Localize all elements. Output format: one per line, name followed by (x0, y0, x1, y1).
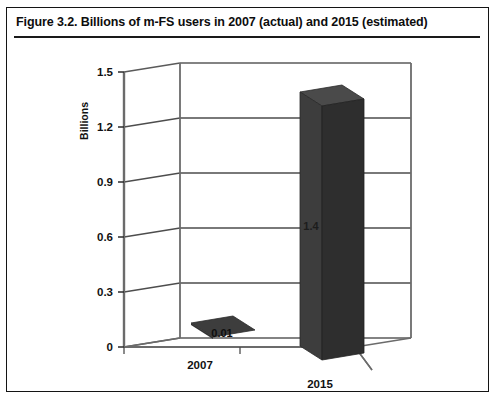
y-tick-label-0-9: 0.9 (97, 176, 113, 188)
y-axis-title-label: Billions (78, 102, 90, 140)
figure-title: Figure 3.2. Billions of m-FS users in 20… (16, 15, 466, 29)
chart-plot-area: 1.5 1.2 0.9 0.6 0.3 0 Billions 0.01 (0, 40, 497, 400)
y-tick-label-0-6: 0.6 (97, 231, 113, 243)
y-axis-title: Billions (78, 102, 90, 140)
x-axis-category-labels: 2007 2015 (187, 359, 333, 390)
bar-2015-side-face (322, 99, 364, 360)
column-chart-3d: 1.5 1.2 0.9 0.6 0.3 0 Billions 0.01 (0, 40, 497, 400)
bar-2015-value-label: 1.4 (303, 220, 319, 232)
title-separator-rule (14, 36, 480, 38)
chart-floor (124, 338, 411, 362)
chart-left-wall (124, 63, 180, 338)
bar-2007-value-label: 0.01 (211, 327, 232, 339)
y-axis-tick-labels: 1.5 1.2 0.9 0.6 0.3 0 (97, 66, 114, 353)
category-label-2007: 2007 (187, 359, 213, 371)
y-tick-label-0-3: 0.3 (97, 286, 113, 298)
chart-back-wall (180, 63, 411, 338)
category-label-2015: 2015 (307, 378, 333, 390)
y-tick-label-1-5: 1.5 (97, 66, 114, 78)
y-tick-label-0: 0 (107, 341, 113, 353)
figure-container: Figure 3.2. Billions of m-FS users in 20… (0, 0, 497, 407)
y-tick-label-1-2: 1.2 (97, 121, 113, 133)
